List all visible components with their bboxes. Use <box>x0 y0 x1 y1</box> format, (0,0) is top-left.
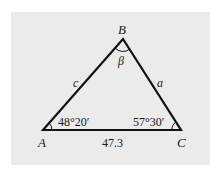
vertex-label-a: A <box>37 135 46 150</box>
angle-label-c: 57°30′ <box>133 115 165 129</box>
vertex-label-c: C <box>177 135 186 150</box>
vertex-label-b: B <box>118 22 126 37</box>
side-label-a: a <box>157 76 163 90</box>
angle-label-a: 48°20′ <box>58 115 90 129</box>
angle-label-b: β <box>117 54 124 68</box>
angle-arc-b <box>115 48 130 51</box>
side-label-c: c <box>73 76 79 90</box>
side-label-b: 47.3 <box>102 136 123 150</box>
triangle-diagram: B A C β 48°20′ 57°30′ c a 47.3 <box>0 0 221 173</box>
